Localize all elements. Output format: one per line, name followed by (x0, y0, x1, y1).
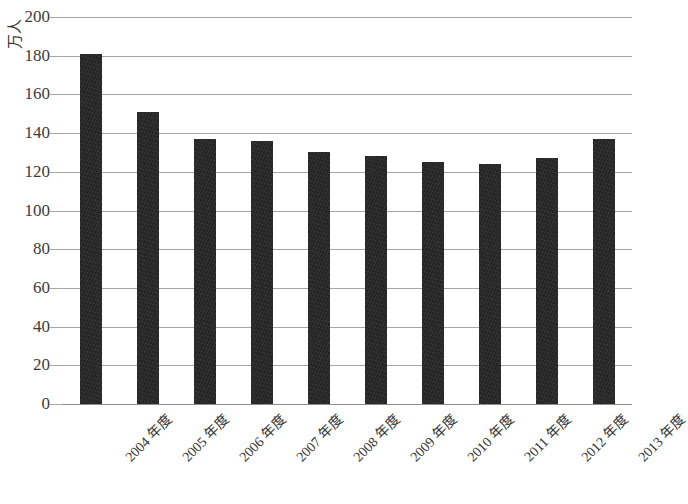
y-tick-mark (50, 17, 62, 18)
y-tick-mark (50, 288, 62, 289)
bar (194, 139, 216, 404)
y-tick-label: 160 (2, 85, 50, 102)
y-tick-label: 40 (2, 318, 50, 335)
x-tick-label: 2011 年度 (521, 412, 573, 464)
footer-note (14, 492, 414, 504)
x-tick-label: 2010 年度 (464, 412, 517, 465)
y-tick-label: 180 (2, 47, 50, 64)
x-tick-label: 2006 年度 (236, 412, 289, 465)
x-tick-label: 2013 年度 (635, 412, 688, 465)
bar (365, 156, 387, 404)
plot-area (62, 17, 632, 404)
x-tick-label: 2012 年度 (578, 412, 631, 465)
y-tick-mark (50, 56, 62, 57)
y-tick-label: 20 (2, 356, 50, 373)
y-tick-label: 140 (2, 124, 50, 141)
y-tick-mark (50, 404, 62, 405)
bar (422, 162, 444, 404)
y-tick-mark (50, 211, 62, 212)
y-tick-mark (50, 94, 62, 95)
bar (80, 54, 102, 404)
y-tick-label: 120 (2, 163, 50, 180)
y-tick-mark (50, 172, 62, 173)
x-tick-label: 2007 年度 (293, 412, 346, 465)
x-tick-label: 2005 年度 (179, 412, 232, 465)
bar (536, 158, 558, 404)
bar (308, 152, 330, 404)
bar-series (62, 17, 632, 404)
x-axis-tick-labels: 2004 年度2005 年度2006 年度2007 年度2008 年度2009 … (62, 404, 642, 474)
bar (137, 112, 159, 404)
y-tick-label: 0 (2, 395, 50, 412)
x-tick-label: 2009 年度 (407, 412, 460, 465)
y-tick-mark (50, 365, 62, 366)
x-tick-label: 2008 年度 (350, 412, 403, 465)
bar (479, 164, 501, 404)
bar (251, 141, 273, 404)
y-tick-label: 60 (2, 279, 50, 296)
y-tick-label: 100 (2, 202, 50, 219)
y-tick-mark (50, 133, 62, 134)
y-tick-label: 200 (2, 8, 50, 25)
y-axis-tick-labels: 200180160140120100806040200 (0, 0, 50, 420)
bar (593, 139, 615, 404)
y-tick-mark (50, 327, 62, 328)
y-tick-label: 80 (2, 240, 50, 257)
x-tick-label: 2004 年度 (122, 412, 175, 465)
y-tick-mark (50, 249, 62, 250)
